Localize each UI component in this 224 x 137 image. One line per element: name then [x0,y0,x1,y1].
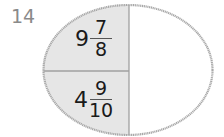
whole-part: 9 [75,28,89,50]
denominator: 8 [95,40,107,59]
numerator: 9 [95,79,107,98]
fraction: 7 8 [90,18,112,59]
denominator: 10 [89,101,113,120]
mixed-number-top-left: 9 7 8 [75,18,112,59]
empty-right-section[interactable] [129,0,219,137]
mixed-number-bottom-left: 4 9 10 [74,79,113,120]
fraction: 9 10 [89,79,113,120]
whole-part: 4 [74,89,88,111]
numerator: 7 [95,18,107,37]
